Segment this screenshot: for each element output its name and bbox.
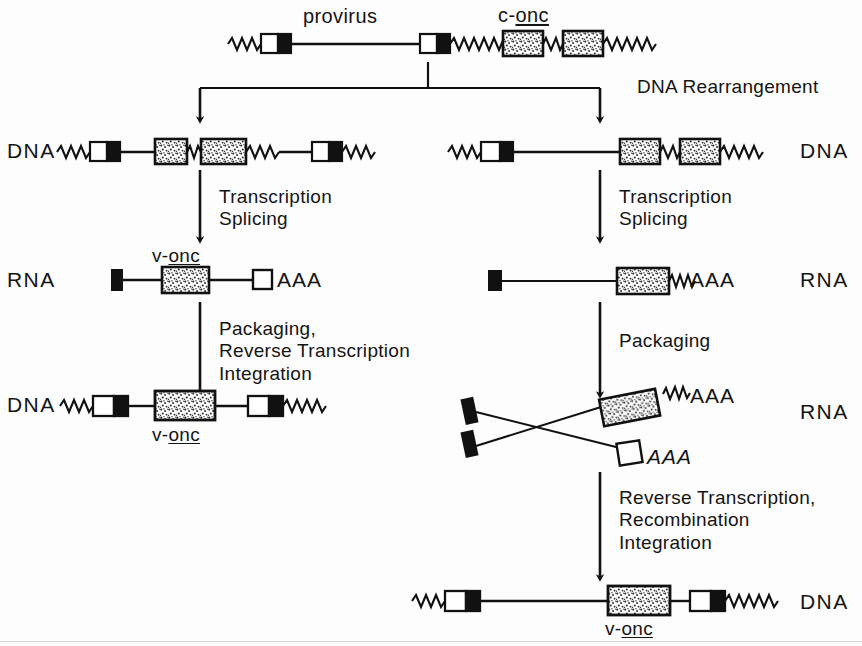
- label-c-onc-gene: onc: [515, 4, 548, 26]
- label-dna-rearrangement: DNA Rearrangement: [637, 76, 818, 98]
- row-label-rna-right-1: RNA: [800, 268, 849, 293]
- row-label-dna-right-1: DNA: [800, 139, 849, 164]
- chromosome-bottom-dna-vonc-provirus: [412, 586, 778, 615]
- figure-bottom-rule: [0, 641, 862, 642]
- label-poly-a-rna-left: AAA: [277, 268, 322, 293]
- row-label-rna-right-2: RNA: [800, 400, 849, 425]
- label-v-onc-rna-left-gene: onc: [168, 245, 200, 266]
- rna-right-1: [489, 268, 695, 294]
- label-v-onc-rna-left-prefix: v-: [152, 245, 168, 266]
- figure-retroviral-oncogene-transduction: provirus c-onc DNA Rearrangement DNA DNA…: [0, 0, 862, 646]
- chromosome-left-dna-1: [57, 139, 375, 164]
- label-right-rt-recombination-integration: Reverse Transcription, Recombination Int…: [619, 487, 816, 554]
- label-v-onc-dna-left-2: v-onc: [152, 424, 200, 446]
- label-poly-a-rna-right-2-lower: AAA: [647, 445, 692, 470]
- label-v-onc-dna-left-2-prefix: v-: [152, 424, 168, 445]
- label-v-onc-dna-bottom: v-onc: [605, 618, 653, 640]
- rna-left-vonc: [112, 267, 272, 293]
- label-v-onc-dna-bottom-prefix: v-: [605, 618, 621, 639]
- label-left-packaging-rt-integration: Packaging, Reverse Transcription Integra…: [219, 318, 410, 385]
- label-left-transcription-splicing: Transcription Splicing: [219, 186, 332, 231]
- label-right-transcription-splicing: Transcription Splicing: [619, 186, 732, 231]
- row-label-rna-left: RNA: [7, 268, 56, 293]
- label-v-onc-dna-bottom-gene: onc: [621, 618, 653, 639]
- label-v-onc-dna-left-2-gene: onc: [168, 424, 200, 445]
- label-c-onc: c-onc: [498, 4, 549, 28]
- label-right-packaging: Packaging: [619, 330, 710, 352]
- chromosome-right-dna-1: [448, 139, 763, 164]
- row-label-dna-bottom: DNA: [800, 590, 849, 615]
- label-poly-a-rna-right-1: AAA: [690, 268, 735, 293]
- chromosome-top-provirus-conc: [228, 31, 656, 56]
- row-label-dna-left-1: DNA: [7, 139, 56, 164]
- label-v-onc-rna-left: v-onc: [152, 245, 200, 267]
- row-label-dna-left-2: DNA: [7, 393, 56, 418]
- chromosome-left-dna-2-provirus-vonc: [60, 391, 326, 420]
- label-provirus: provirus: [303, 5, 377, 29]
- branch-arrows-dna-rearrangement: [200, 62, 600, 120]
- label-c-onc-prefix: c-: [498, 4, 515, 26]
- label-poly-a-rna-right-2-upper: AAA: [690, 384, 735, 409]
